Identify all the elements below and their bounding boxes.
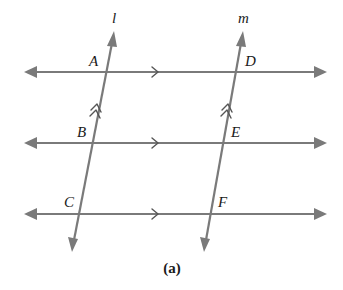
transversal-m [200,31,246,252]
figure-caption: (a) [163,260,181,277]
arrowhead-right-icon [314,66,327,78]
arrowhead-left-icon [24,66,37,78]
point-label-e: E [230,124,240,140]
point-label-d: D [244,53,256,69]
arrowhead-left-icon [24,137,37,149]
line-label-l: l [112,10,116,26]
arrowhead-down-icon [200,237,210,252]
arrowhead-up-icon [236,31,246,47]
parallel-lines-transversals-diagram: l m A B C D E F (a) [0,0,343,290]
arrowhead-down-icon [68,237,78,252]
line-label-m: m [238,10,249,26]
horizontal-line-2 [24,137,327,149]
point-label-b: B [77,124,86,140]
arrowhead-left-icon [24,208,37,220]
arrowhead-up-icon [107,31,117,47]
horizontal-line-1 [24,66,327,78]
arrowhead-right-icon [314,137,327,149]
point-label-a: A [88,53,99,69]
point-label-f: F [217,194,228,210]
point-label-c: C [64,194,75,210]
arrowhead-right-icon [314,208,327,220]
